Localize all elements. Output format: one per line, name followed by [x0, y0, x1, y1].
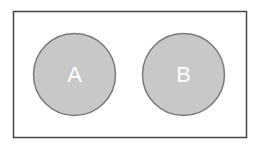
set-b: B	[143, 34, 225, 116]
venn-diagram: A B	[0, 0, 259, 145]
set-a: A	[34, 34, 116, 116]
set-b-label: B	[176, 62, 191, 87]
set-a-label: A	[67, 62, 82, 87]
